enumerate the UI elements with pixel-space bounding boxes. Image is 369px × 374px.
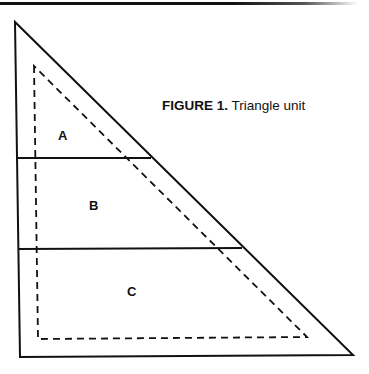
figure-caption: FIGURE 1. Triangle unit [162, 99, 305, 113]
figure-number: FIGURE 1. [162, 98, 228, 113]
divider-line-bc [18, 248, 242, 249]
triangle-diagram [0, 0, 369, 374]
figure-title: Triangle unit [232, 98, 306, 113]
outer-triangle [15, 22, 353, 357]
region-label-c: C [127, 285, 136, 298]
triangle-unit-figure: FIGURE 1. Triangle unit A B C [0, 0, 369, 374]
region-label-b: B [89, 199, 98, 212]
region-label-a: A [58, 129, 67, 142]
